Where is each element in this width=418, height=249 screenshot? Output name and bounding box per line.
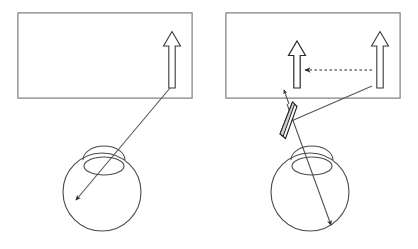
left-display-frame-top (18, 13, 192, 98)
figure-root (0, 0, 418, 249)
left-object-to-retina-ray (76, 88, 170, 200)
left-eye-globe (63, 153, 141, 231)
prism-to-retina-ray (287, 104, 331, 225)
left-panel (18, 13, 192, 231)
right-display-frame-top (226, 13, 400, 98)
right-panel-display (226, 13, 400, 98)
right-eye-globe (271, 153, 349, 231)
right-eye (271, 146, 349, 231)
left-eye (63, 146, 141, 231)
left-panel-display (18, 13, 192, 98)
right-panel (226, 13, 400, 231)
optics-diagram-svg (0, 0, 418, 249)
